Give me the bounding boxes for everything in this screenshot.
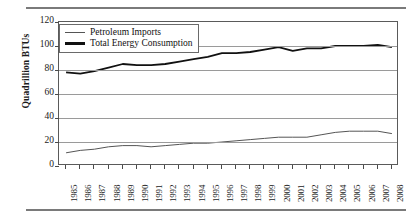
x-tick-label-1991: 1991: [154, 185, 164, 202]
legend-swatch-icon: [65, 32, 85, 33]
x-tick-label-1989: 1989: [126, 185, 136, 202]
x-tick-label-1996: 1996: [225, 185, 235, 202]
x-tick-label-1992: 1992: [168, 185, 178, 202]
x-tick-label-2007: 2007: [381, 185, 391, 202]
x-tick-label-2005: 2005: [352, 185, 362, 202]
legend-item-1: Petroleum Imports: [65, 27, 193, 38]
x-tick-label-2006: 2006: [367, 185, 377, 202]
legend-swatch-icon: [65, 42, 85, 44]
chart-figure: Quadrillion BTUs 120100806040200 1985198…: [0, 0, 418, 220]
x-tick-label-1985: 1985: [69, 185, 79, 202]
x-tick-label-1990: 1990: [140, 185, 150, 202]
x-tick-label-2002: 2002: [310, 185, 320, 202]
x-tick-label-1986: 1986: [83, 185, 93, 202]
legend-label: Total Energy Consumption: [90, 38, 193, 49]
x-tick-label-1999: 1999: [267, 185, 277, 202]
x-tick-label-2000: 2000: [282, 185, 292, 202]
x-tick-label-1988: 1988: [112, 185, 122, 202]
x-tick-label-2003: 2003: [324, 185, 334, 202]
x-tick-label-1993: 1993: [182, 185, 192, 202]
x-tick-label-1987: 1987: [97, 185, 107, 202]
x-tick-label-1995: 1995: [211, 185, 221, 202]
x-tick-label-1994: 1994: [197, 185, 207, 202]
x-tick-label-2008: 2008: [395, 185, 405, 202]
x-tick-label-2001: 2001: [296, 185, 306, 202]
x-tick-label-2004: 2004: [338, 185, 348, 202]
legend-item-2: Total Energy Consumption: [65, 38, 193, 49]
x-tick-label-1997: 1997: [239, 185, 249, 202]
legend-label: Petroleum Imports: [90, 27, 161, 38]
x-tick-label-1998: 1998: [253, 185, 263, 202]
chart-legend: Petroleum ImportsTotal Energy Consumptio…: [59, 24, 199, 53]
